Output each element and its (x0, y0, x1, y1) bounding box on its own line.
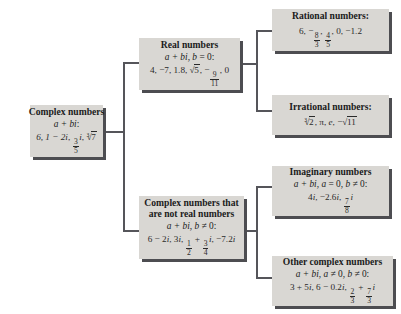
node-irrational-title: Irrational numbers: (289, 101, 371, 112)
node-irrational-examples: 3√2, π, e, −√11 (304, 117, 357, 128)
complex-number-classification-diagram: Complex numbers a + bi: 6, 1 − 2i, 35i, … (0, 0, 401, 314)
connector-to-imaginary (256, 186, 272, 188)
node-complex-form: a + bi: (54, 119, 80, 130)
node-other-complex-numbers: Other complex numbers a + bi, a ≠ 0, b ≠… (272, 256, 393, 306)
fraction-9-11: 911 (210, 71, 219, 88)
node-nonreal-title-line1: Complex numbers that (144, 197, 238, 208)
node-imaginary-form: a + bi, a = 0, b ≠ 0: (294, 179, 368, 190)
node-rational-title: Rational numbers: (292, 10, 369, 21)
connector-to-real (123, 62, 139, 64)
connector-to-nonreal (123, 230, 139, 232)
node-rational-numbers: Rational numbers: 6, −83, 45, 0, −1.2 (272, 9, 389, 51)
node-other-examples: 3 + 5i, 6 − 0.2i, 23 + 73i (290, 282, 375, 305)
sqrt-5: √5 (190, 65, 200, 75)
connector-trunk-level1 (123, 62, 125, 232)
connector-to-irrational (256, 110, 272, 112)
fraction-8-3: 83 (314, 32, 320, 49)
fraction-3-5: 35 (73, 138, 79, 155)
fraction-3-4: 34 (203, 240, 209, 257)
fraction-2-3: 23 (350, 288, 356, 305)
node-irrational-numbers: Irrational numbers: 3√2, π, e, −√11 (272, 95, 389, 135)
cube-root-2: 3√2 (304, 117, 314, 127)
node-real-examples: 4, −7, 1.8, √5, −911, 0 (150, 65, 229, 88)
node-nonreal-examples: 6 − 2i, 3i, 12 + 34i, −7.2i (148, 234, 236, 257)
node-rational-examples: 6, −83, 45, 0, −1.2 (299, 26, 362, 49)
node-nonreal-form: a + bi, b ≠ 0: (167, 221, 217, 232)
connector-trunk-real-children (256, 30, 258, 112)
node-real-numbers: Real numbers a + bi, b = 0: 4, −7, 1.8, … (139, 38, 240, 90)
node-complex-numbers: Complex numbers a + bi: 6, 1 − 2i, 35i, … (30, 105, 103, 157)
node-nonreal-complex-numbers: Complex numbers that are not real number… (139, 196, 244, 259)
node-imaginary-examples: 4i, −2.6i, 78i (308, 192, 353, 215)
connector-trunk-nonreal-children (256, 186, 258, 278)
node-real-title: Real numbers (161, 39, 218, 50)
cube-root-7: 3√7 (86, 132, 96, 142)
node-complex-title: Complex numbers (29, 106, 104, 117)
connector-to-rational (256, 30, 272, 32)
connector-complex-stem (103, 131, 125, 133)
node-imaginary-numbers: Imaginary numbers a + bi, a = 0, b ≠ 0: … (272, 166, 389, 216)
connector-to-other (256, 277, 272, 279)
fraction-1-2: 12 (186, 240, 192, 257)
node-other-form: a + bi, a ≠ 0, b ≠ 0: (296, 269, 369, 280)
fraction-4-5: 45 (325, 32, 331, 49)
node-complex-examples: 6, 1 − 2i, 35i, 3√7 (36, 132, 97, 155)
node-other-title: Other complex numbers (283, 256, 382, 267)
sqrt-11: √11 (342, 117, 356, 127)
node-real-form: a + bi, b = 0: (165, 52, 215, 63)
node-imaginary-title: Imaginary numbers (290, 166, 372, 177)
node-nonreal-title-line2: are not real numbers (149, 208, 235, 219)
